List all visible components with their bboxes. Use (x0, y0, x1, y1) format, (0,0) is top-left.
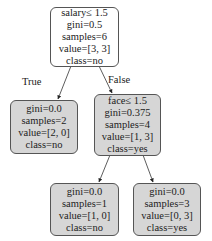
edge-root-left (58, 66, 71, 99)
node-gini: gini=0.375 (105, 107, 151, 119)
node-right-right-leaf: gini=0.0 samples=3 value=[0, 3] class=ye… (133, 183, 201, 236)
node-gini: gini=0.0 (67, 186, 102, 198)
edge-right-right (143, 155, 153, 182)
node-value: value=[1, 0] (59, 210, 110, 222)
node-class: class=yes (107, 143, 147, 155)
node-class: class=yes (147, 222, 187, 234)
node-class: class=no (66, 222, 103, 234)
node-value: value=[3, 3] (59, 43, 110, 55)
node-value: value=[2, 0] (18, 127, 69, 139)
node-value: value=[1, 3] (102, 131, 153, 143)
node-samples: samples=1 (62, 198, 107, 210)
edge-label-true: True (22, 76, 41, 87)
node-split-condition: salary≤ 1.5 (61, 7, 108, 19)
node-right-left-leaf: gini=0.0 samples=1 value=[1, 0] class=no (50, 183, 119, 236)
node-class: class=no (66, 55, 103, 67)
node-class: class=no (26, 139, 63, 151)
node-left-leaf: gini=0.0 samples=2 value=[2, 0] class=no (10, 100, 78, 154)
node-samples: samples=4 (105, 119, 150, 131)
node-right-split: face≤ 1.5 gini=0.375 samples=4 value=[1,… (94, 94, 161, 156)
node-split-condition: face≤ 1.5 (108, 95, 147, 107)
edge-right-left (99, 155, 110, 182)
node-value: value=[0, 3] (141, 210, 192, 222)
edge-label-false: False (108, 74, 130, 85)
node-gini: gini=0.5 (67, 19, 102, 31)
node-samples: samples=3 (145, 198, 190, 210)
node-gini: gini=0.0 (26, 103, 61, 115)
node-root: salary≤ 1.5 gini=0.5 samples=6 value=[3,… (50, 7, 119, 67)
node-samples: samples=6 (62, 31, 107, 43)
node-gini: gini=0.0 (149, 186, 184, 198)
node-samples: samples=2 (22, 115, 67, 127)
